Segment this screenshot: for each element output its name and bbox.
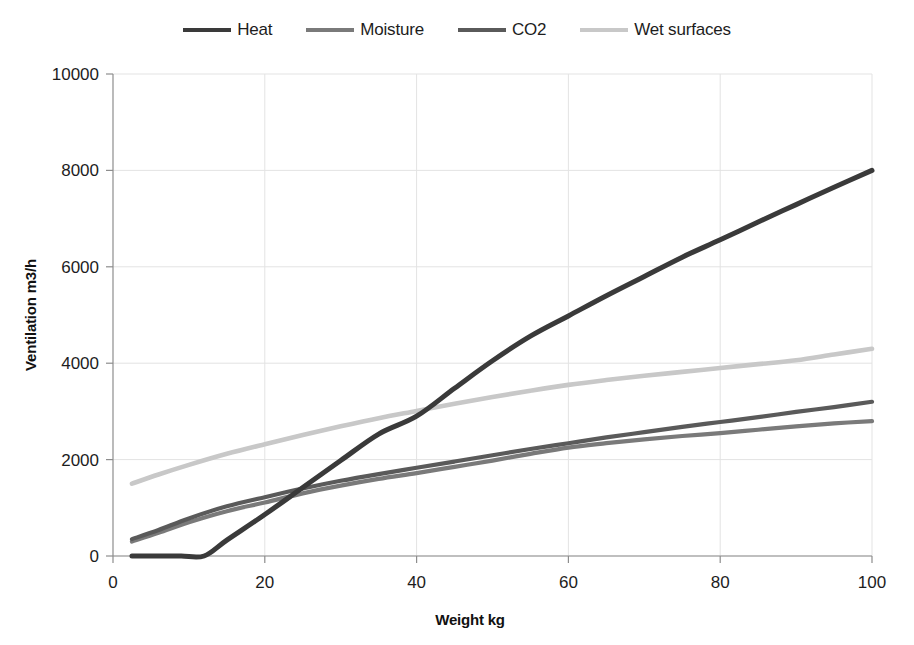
series-line-moisture (132, 421, 872, 541)
x-tick-label: 40 (407, 573, 426, 592)
x-tick-label: 100 (858, 573, 886, 592)
plot-area-wrapper: 0200040006000800010000 020406080100 Weig… (0, 0, 914, 645)
axes (106, 74, 872, 563)
x-tick-label: 80 (711, 573, 730, 592)
y-axis-title: Ventilation m3/h (22, 259, 39, 371)
y-tick-label: 10000 (52, 65, 99, 84)
tick-labels-y: 0200040006000800010000 (52, 65, 99, 566)
x-axis-title: Weight kg (435, 611, 505, 628)
line-chart-svg: 0200040006000800010000 020406080100 Weig… (0, 0, 914, 645)
x-tick-label: 0 (108, 573, 117, 592)
y-tick-label: 2000 (61, 451, 99, 470)
tick-labels-x: 020406080100 (108, 573, 886, 592)
gridlines (113, 74, 872, 556)
chart-container: Heat Moisture CO2 Wet surfaces 020004000… (0, 0, 914, 645)
y-tick-label: 8000 (61, 161, 99, 180)
y-tick-label: 0 (90, 547, 99, 566)
y-tick-label: 4000 (61, 354, 99, 373)
y-tick-label: 6000 (61, 258, 99, 277)
x-tick-label: 60 (559, 573, 578, 592)
x-tick-label: 20 (255, 573, 274, 592)
data-series (132, 170, 872, 557)
series-line-co2 (132, 402, 872, 539)
